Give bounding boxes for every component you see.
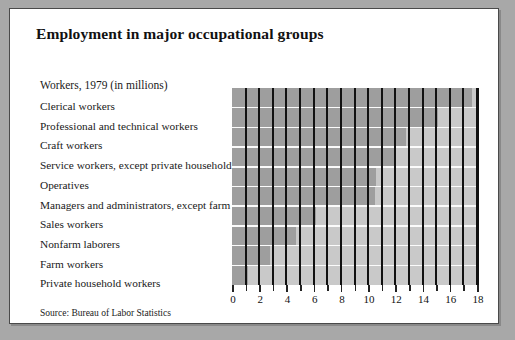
x-axis-minor-tick [463, 285, 465, 291]
category-label: Clerical workers [40, 97, 115, 117]
x-axis-tick-label: 12 [391, 293, 402, 305]
x-axis-tick-label: 14 [418, 293, 429, 305]
x-axis-tick-label: 2 [257, 293, 263, 305]
gridline [326, 88, 328, 285]
x-axis-tick [423, 285, 425, 292]
figure-panel: Employment in major occupational groups … [9, 8, 499, 324]
x-axis-minor-tick [300, 285, 302, 291]
gridline [354, 88, 356, 285]
gridline [422, 88, 424, 285]
gridline [394, 88, 396, 285]
x-axis-tick-label: 10 [364, 293, 375, 305]
category-label: Service workers, except private househol… [40, 156, 232, 176]
x-axis-minor-tick [382, 285, 384, 291]
gridline [245, 88, 247, 285]
x-axis-tick [395, 285, 397, 292]
gridline [299, 88, 301, 285]
bar-chart-plot [232, 88, 479, 285]
gridline [313, 88, 315, 285]
category-label: Private household workers [40, 274, 160, 294]
x-axis-tick [368, 285, 370, 292]
gridline [435, 88, 437, 285]
x-axis-minor-tick [409, 285, 411, 291]
x-axis-minor-tick [246, 285, 248, 291]
gridline [449, 88, 451, 285]
category-label-list: Clerical workersProfessional and technic… [40, 97, 236, 293]
x-axis-tick [477, 285, 479, 292]
x-axis-tick-label: 6 [312, 293, 318, 305]
x-axis-tick [286, 285, 288, 292]
gridline [462, 88, 464, 285]
category-label: Managers and administrators, except farm [40, 196, 230, 216]
x-axis-tick-label: 16 [445, 293, 456, 305]
x-axis-tick-label: 18 [473, 293, 484, 305]
bar [232, 246, 270, 266]
category-label: Farm workers [40, 255, 103, 275]
x-axis-tick [341, 285, 343, 292]
gridline [272, 88, 274, 285]
units-caption: Workers, 1979 (in millions) [40, 79, 167, 91]
gridline [381, 88, 383, 285]
x-axis-tick-label: 0 [230, 293, 236, 305]
category-label: Craft workers [40, 136, 102, 156]
gridline [408, 88, 410, 285]
gridline [367, 88, 369, 285]
source-note: Source: Bureau of Labor Statistics [40, 308, 171, 318]
category-label: Professional and technical workers [40, 117, 198, 137]
x-axis-minor-tick [355, 285, 357, 291]
x-axis-minor-tick [436, 285, 438, 291]
x-axis-tick [232, 285, 234, 292]
gridline [285, 88, 287, 285]
category-label: Nonfarm laborers [40, 235, 120, 255]
gridline [340, 88, 342, 285]
gridline [476, 88, 478, 285]
gridline [258, 88, 260, 285]
x-axis-tick [314, 285, 316, 292]
x-axis-tick-label: 4 [285, 293, 291, 305]
x-axis-minor-tick [273, 285, 275, 291]
x-axis: 024681012141618 [232, 285, 479, 311]
x-axis-tick [259, 285, 261, 292]
category-label: Operatives [40, 176, 89, 196]
x-axis-minor-tick [327, 285, 329, 291]
page-title: Employment in major occupational groups [36, 25, 324, 43]
category-label: Sales workers [40, 215, 103, 235]
bar [232, 108, 438, 128]
x-axis-tick [450, 285, 452, 292]
x-axis-tick-label: 8 [339, 293, 345, 305]
